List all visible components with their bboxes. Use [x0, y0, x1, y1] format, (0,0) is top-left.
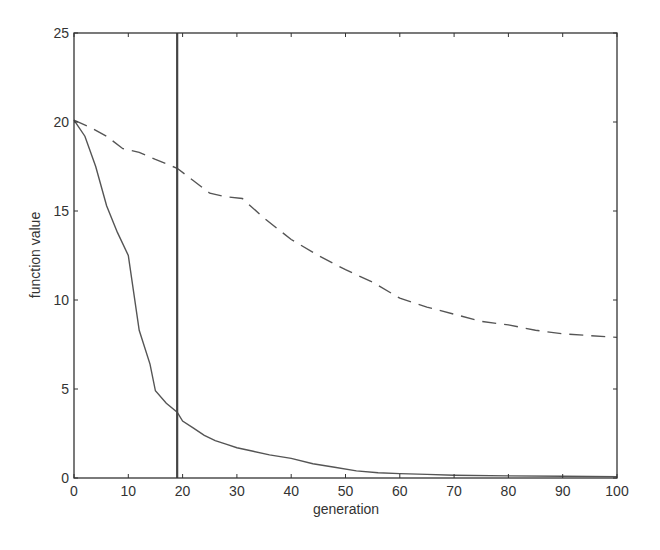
y-tick-label: 0 [61, 470, 69, 486]
y-axis-label: function value [27, 212, 43, 299]
x-tick-label: 20 [175, 483, 191, 499]
x-tick-label: 100 [605, 483, 629, 499]
plot-area [74, 33, 617, 478]
x-tick-label: 70 [446, 483, 462, 499]
y-tick-label: 25 [53, 25, 69, 41]
y-tick-label: 10 [53, 292, 69, 308]
y-tick-label: 20 [53, 114, 69, 130]
axes: 01020304050607080901000510152025 [53, 25, 628, 499]
x-tick-label: 50 [338, 483, 354, 499]
solid-series-line [74, 120, 617, 476]
x-tick-label: 0 [70, 483, 78, 499]
x-axis-label: generation [313, 501, 379, 517]
x-tick-label: 90 [555, 483, 571, 499]
y-tick-label: 15 [53, 203, 69, 219]
x-tick-label: 10 [121, 483, 137, 499]
x-tick-label: 30 [229, 483, 245, 499]
x-tick-label: 80 [501, 483, 517, 499]
axes-frame [74, 33, 617, 478]
x-tick-label: 40 [283, 483, 299, 499]
line-chart: 01020304050607080901000510152025 generat… [0, 0, 660, 550]
x-tick-label: 60 [392, 483, 408, 499]
y-tick-label: 5 [61, 381, 69, 397]
dashed-series-line [74, 120, 617, 337]
